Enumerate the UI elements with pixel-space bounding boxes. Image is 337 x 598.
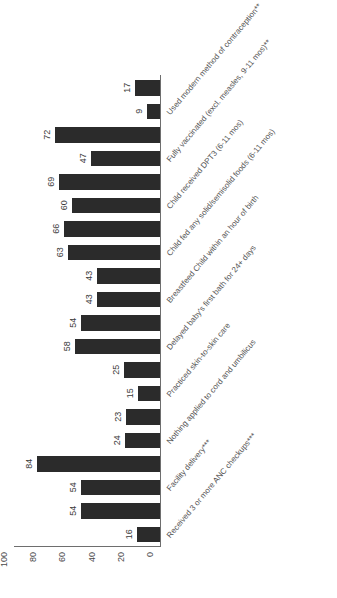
category-axis-label: Child received DPT3 (6-11 mos) xyxy=(165,118,245,211)
y-axis-tick-label: 0 xyxy=(145,552,155,557)
bar-value-label: 54 xyxy=(68,506,78,516)
bar-slot: 72 xyxy=(14,123,160,147)
bar-value-label: 58 xyxy=(62,341,72,351)
bar-value-label: 63 xyxy=(55,247,65,257)
bar-slot: 15 xyxy=(14,382,160,406)
bar xyxy=(125,433,160,449)
x-axis-line xyxy=(160,75,161,547)
category-axis-label: Received 3 or more ANC checkups*** xyxy=(165,432,258,540)
bar xyxy=(59,174,160,190)
bar-slot: 58 xyxy=(14,335,160,359)
bar-value-label: 54 xyxy=(68,482,78,492)
bar-slot: 17 xyxy=(14,76,160,100)
bar-value-label: 25 xyxy=(111,365,121,375)
y-axis-tick-label: 20 xyxy=(116,552,126,562)
y-axis-tick-label: 60 xyxy=(57,552,67,562)
bar xyxy=(72,198,160,214)
bar xyxy=(97,292,160,308)
bar-value-label: 54 xyxy=(68,318,78,328)
bar-slot: 54 xyxy=(14,311,160,335)
bar-value-label: 43 xyxy=(84,294,94,304)
bar-value-label: 9 xyxy=(134,109,144,114)
bar xyxy=(91,151,160,167)
bar-value-label: 23 xyxy=(113,412,123,422)
y-axis-tick-label: 40 xyxy=(87,552,97,562)
bar-slot: 54 xyxy=(14,476,160,500)
bar-slot: 16 xyxy=(14,523,160,547)
bar xyxy=(124,362,161,378)
bar-value-label: 24 xyxy=(112,435,122,445)
y-axis-tick-label: 80 xyxy=(28,552,38,562)
bar xyxy=(37,456,160,472)
bar xyxy=(147,104,160,120)
bar-value-label: 60 xyxy=(59,200,69,210)
bar-slot: 23 xyxy=(14,405,160,429)
bar xyxy=(97,268,160,284)
y-axis-line xyxy=(14,546,161,547)
bar-slot: 47 xyxy=(14,147,160,171)
bar xyxy=(137,527,160,543)
bar xyxy=(135,80,160,96)
bar xyxy=(68,245,160,261)
rotated-chart-wrapper: 0204060801001654548424231525585443436366… xyxy=(0,0,337,598)
bar-value-label: 47 xyxy=(78,153,88,163)
bar-slot: 43 xyxy=(14,288,160,312)
bar-slot: 25 xyxy=(14,358,160,382)
bar-value-label: 43 xyxy=(84,271,94,281)
bar xyxy=(126,409,160,425)
bar-slot: 69 xyxy=(14,170,160,194)
bar xyxy=(81,315,160,331)
bar-slot: 60 xyxy=(14,194,160,218)
bar xyxy=(81,503,160,519)
bar-slot: 84 xyxy=(14,452,160,476)
bar-slot: 54 xyxy=(14,499,160,523)
bar-value-label: 17 xyxy=(122,83,132,93)
bar-value-label: 84 xyxy=(24,459,34,469)
bar-slot: 43 xyxy=(14,264,160,288)
bar-value-label: 16 xyxy=(124,529,134,539)
bar-value-label: 66 xyxy=(51,224,61,234)
bar-slot: 63 xyxy=(14,241,160,265)
bar xyxy=(81,480,160,496)
bar-slot: 24 xyxy=(14,429,160,453)
bar xyxy=(75,339,160,355)
bar xyxy=(64,221,160,237)
plot-area: 0204060801001654548424231525585443436366… xyxy=(14,76,160,546)
bar-value-label: 72 xyxy=(42,130,52,140)
bar-value-label: 15 xyxy=(125,388,135,398)
y-axis-tick-label: 100 xyxy=(0,552,9,567)
bar-value-label: 69 xyxy=(46,177,56,187)
bar xyxy=(138,386,160,402)
bar xyxy=(55,127,160,143)
category-axis-label: Nothing applied to cord and umbilicus xyxy=(165,338,258,446)
bar-slot: 9 xyxy=(14,100,160,124)
bar-slot: 66 xyxy=(14,217,160,241)
bar-chart: 0204060801001654548424231525585443436366… xyxy=(0,0,337,598)
